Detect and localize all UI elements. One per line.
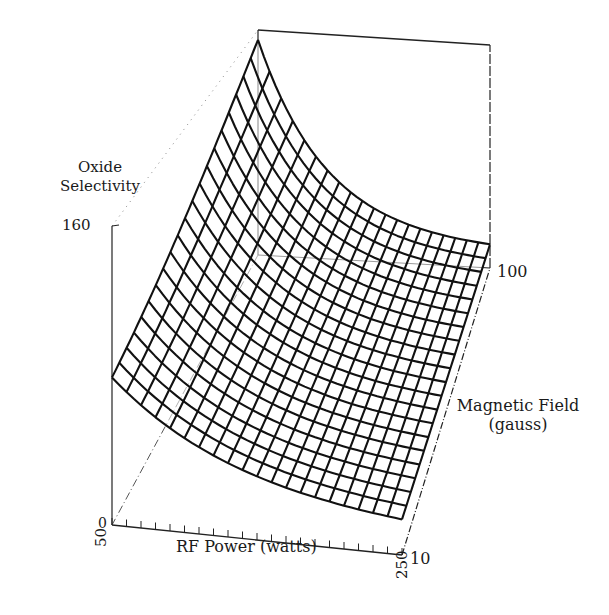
- y-axis-label: Magnetic Field (gauss): [448, 396, 588, 434]
- x-axis-label: RF Power (watts): [176, 537, 317, 556]
- surface-plot: [0, 0, 609, 615]
- z-axis-label-line2: Selectivity: [40, 177, 160, 196]
- top-back-edge: [258, 30, 490, 45]
- y-tick-min: 10: [410, 549, 430, 568]
- z-tick-max: 160: [62, 216, 91, 235]
- y-axis-label-line2: (gauss): [448, 415, 588, 434]
- x-tick-min: 50: [92, 528, 111, 547]
- surface-mesh: [112, 40, 490, 520]
- z-axis-label-line1: Oxide: [40, 158, 160, 177]
- y-axis-label-line1: Magnetic Field: [448, 396, 588, 415]
- y-tick-max: 100: [497, 262, 528, 281]
- z-axis-label: Oxide Selectivity: [40, 158, 160, 196]
- z-tick-160: [112, 225, 119, 226]
